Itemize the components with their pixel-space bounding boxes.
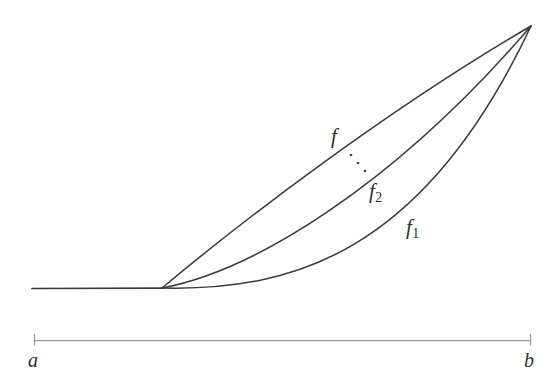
curve-f1 [162, 26, 531, 288]
axis-label-b: b [524, 350, 534, 370]
curve-label-f1-base: f [406, 215, 412, 239]
ellipsis-dots [350, 154, 367, 173]
curve-label-f2: f2 [369, 181, 382, 205]
curve-label-f2-base: f [369, 179, 375, 203]
curve-label-f1-subscript: 1 [412, 226, 419, 241]
function-sequence-plot [0, 0, 558, 388]
curve-label-f1: f1 [406, 217, 419, 241]
curve-label-f: f [331, 126, 337, 147]
figure-canvas: f f2 f1 a b [0, 0, 558, 388]
curve-label-f2-subscript: 2 [375, 190, 382, 205]
axis-label-a: a [28, 350, 38, 370]
